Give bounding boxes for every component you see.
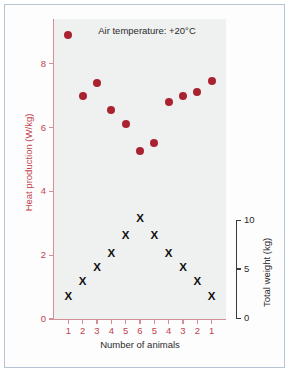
y-axis-left-tick — [49, 127, 53, 128]
data-point-total-weight: X — [163, 247, 175, 259]
data-point-total-weight: X — [62, 290, 74, 302]
y-axis-left-tick-label: 8 — [26, 58, 46, 69]
x-axis-tick — [68, 320, 69, 324]
data-point-total-weight: X — [206, 290, 218, 302]
y-axis-left-tick — [49, 318, 53, 319]
data-point-total-weight: X — [91, 261, 103, 273]
figure-card: 02468 12345654321 0510 XXXXXXXXXXX Air t… — [4, 4, 285, 368]
chart-title: Air temperature: +20°C — [67, 25, 227, 36]
y-axis-right-tick-label: 0 — [244, 312, 249, 323]
data-point-heat-production — [179, 92, 187, 100]
y-axis-left-tick-label: 0 — [26, 313, 46, 324]
y-axis-left-tick — [49, 255, 53, 256]
y-axis-left-tick-label: 2 — [26, 249, 46, 260]
y-axis-right-cap-top — [236, 220, 241, 221]
data-point-total-weight: X — [148, 229, 160, 241]
y-axis-left-tick — [49, 63, 53, 64]
y-axis-right-cap-bottom — [236, 318, 241, 319]
data-point-heat-production — [93, 79, 101, 87]
x-axis-tick-label: 1 — [204, 325, 220, 336]
y-axis-right-tick — [236, 268, 241, 269]
x-axis-tick — [82, 320, 83, 324]
data-point-total-weight: X — [120, 229, 132, 241]
x-axis-tick — [111, 320, 112, 324]
y-axis-right-tick-label: 5 — [244, 263, 249, 274]
x-axis-tick — [197, 320, 198, 324]
x-axis-tick — [182, 320, 183, 324]
data-point-total-weight: X — [177, 261, 189, 273]
data-point-total-weight: X — [191, 275, 203, 287]
data-point-heat-production — [79, 92, 87, 100]
x-axis-tick — [154, 320, 155, 324]
y-axis-right-label: Total weight (kg) — [261, 213, 272, 333]
x-axis-tick — [139, 320, 140, 324]
data-point-heat-production — [122, 120, 130, 128]
data-point-total-weight: X — [105, 247, 117, 259]
data-point-total-weight: X — [134, 212, 146, 224]
y-axis-right-tick-label: 10 — [244, 214, 255, 225]
x-axis-label: Number of animals — [54, 339, 226, 350]
y-axis-left-tick — [49, 191, 53, 192]
data-point-heat-production — [165, 98, 173, 106]
x-axis-tick — [125, 320, 126, 324]
y-axis-left-label: Heat production (W/kg) — [23, 88, 34, 238]
data-point-total-weight: X — [77, 275, 89, 287]
x-axis-tick — [168, 320, 169, 324]
y-axis-left-line — [53, 19, 54, 320]
x-axis-tick — [96, 320, 97, 324]
x-axis-tick — [211, 320, 212, 324]
scatter-chart: 02468 12345654321 0510 XXXXXXXXXXX Air t… — [5, 5, 286, 369]
data-point-heat-production — [208, 77, 216, 85]
